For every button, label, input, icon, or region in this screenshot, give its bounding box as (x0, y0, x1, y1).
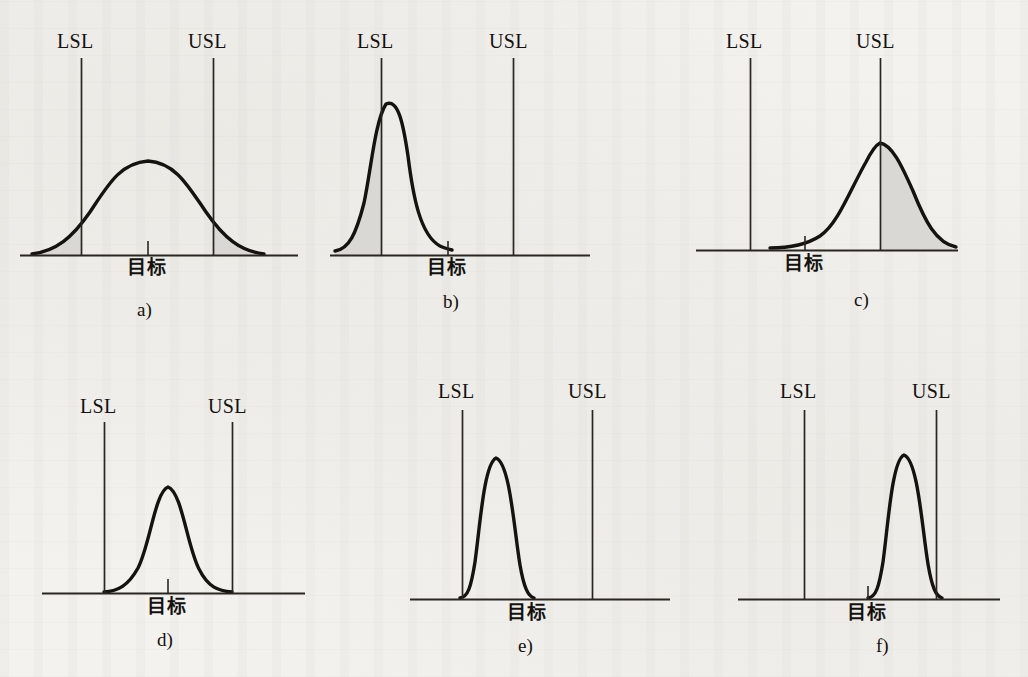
panel-b-caption: b) (443, 292, 459, 311)
panel-c-target-label: 目标 (784, 254, 824, 273)
panel-a-left-tail-shade (32, 224, 82, 255)
panel-a: LSL USL 目标 a) (0, 0, 340, 340)
panel-d-plot (0, 340, 340, 677)
panel-b-usl-label: USL (489, 31, 528, 51)
panel-e: LSL USL 目标 e) (340, 340, 680, 677)
panel-a-lsl-label: LSL (57, 31, 93, 51)
panel-d-curve (104, 487, 232, 592)
panel-e-curve (460, 458, 534, 598)
panel-e-lsl-label: LSL (438, 381, 474, 401)
panel-b-lsl-label: LSL (357, 31, 393, 51)
panel-b-curve (335, 103, 452, 251)
panel-d: LSL USL 目标 d) (0, 340, 340, 677)
panel-a-target-label: 目标 (127, 258, 167, 277)
panel-d-target-label: 目标 (147, 597, 187, 616)
panel-d-lsl-label: LSL (80, 396, 116, 416)
panel-f-curve (868, 455, 942, 598)
panel-a-plot (0, 0, 340, 340)
panel-d-caption: d) (157, 630, 173, 649)
process-capability-figure: LSL USL 目标 a) LSL USL 目标 b) (0, 0, 1028, 677)
panel-e-caption: e) (518, 636, 533, 655)
panel-e-plot (340, 340, 680, 677)
panel-c-caption: c) (854, 290, 869, 309)
panel-e-target-label: 目标 (507, 603, 547, 622)
panel-c-usl-label: USL (856, 31, 895, 51)
panel-a-caption: a) (137, 300, 152, 319)
panel-c: LSL USL 目标 c) (680, 0, 1028, 340)
panel-b-left-tail-shade (335, 108, 381, 255)
panel-e-usl-label: USL (568, 381, 607, 401)
panel-b-target-label: 目标 (427, 258, 467, 277)
panel-f-target-label: 目标 (847, 603, 887, 622)
panel-f: LSL USL 目标 f) (680, 340, 1028, 677)
panel-a-curve (32, 161, 264, 254)
panel-f-lsl-label: LSL (780, 381, 816, 401)
panel-b: LSL USL 目标 b) (330, 0, 670, 340)
panel-f-usl-label: USL (912, 381, 951, 401)
panel-f-plot (680, 340, 1028, 677)
panel-d-usl-label: USL (208, 396, 247, 416)
panel-f-caption: f) (876, 636, 889, 655)
panel-a-usl-label: USL (188, 31, 227, 51)
panel-c-lsl-label: LSL (726, 31, 762, 51)
